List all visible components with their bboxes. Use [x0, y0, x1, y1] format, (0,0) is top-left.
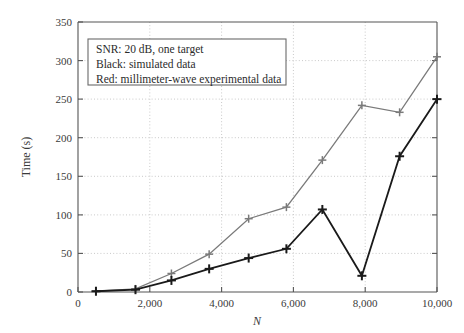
x-tick-label-0: 0 [75, 297, 81, 309]
y-tick-label-100: 100 [56, 209, 73, 221]
y-tick-marks-right [432, 61, 437, 254]
x-tick-label-6000: 6,000 [281, 297, 306, 309]
legend-line-snr: SNR: 20 dB, one target [96, 43, 204, 56]
series-red-markers [92, 53, 441, 295]
y-tick-marks [78, 22, 83, 292]
x-tick-label-2000: 2,000 [137, 297, 162, 309]
x-axis-title: N [252, 314, 262, 328]
series-black-markers [91, 95, 441, 296]
legend-line-black: Black: simulated data [96, 58, 196, 70]
y-tick-label-0: 0 [67, 286, 73, 298]
series-black-line [96, 99, 437, 291]
y-axis-title: Time (s) [19, 137, 33, 178]
series-red-experimental [92, 53, 441, 295]
y-tick-label-250: 250 [56, 93, 73, 105]
series-red-line [96, 57, 437, 291]
y-tick-label-350: 350 [56, 16, 73, 28]
y-tick-labels: 0 50 100 150 200 250 300 350 [56, 16, 73, 298]
legend-line-red: Red: millimeter-wave experimental data [96, 73, 281, 86]
chart-figure: 0 50 100 150 200 250 300 350 0 2,000 4,0… [0, 0, 464, 333]
legend-box: SNR: 20 dB, one target Black: simulated … [88, 39, 286, 86]
y-tick-label-50: 50 [61, 247, 73, 259]
y-tick-label-300: 300 [56, 55, 73, 67]
y-tick-label-150: 150 [56, 170, 73, 182]
x-tick-label-4000: 4,000 [209, 297, 234, 309]
chart-canvas: 0 50 100 150 200 250 300 350 0 2,000 4,0… [0, 0, 464, 333]
series-black-simulated [91, 95, 441, 296]
y-tick-label-200: 200 [56, 132, 73, 144]
x-tick-label-8000: 8,000 [353, 297, 378, 309]
x-tick-labels: 0 2,000 4,000 6,000 8,000 10,000 [75, 297, 452, 309]
x-tick-label-10000: 10,000 [422, 297, 453, 309]
